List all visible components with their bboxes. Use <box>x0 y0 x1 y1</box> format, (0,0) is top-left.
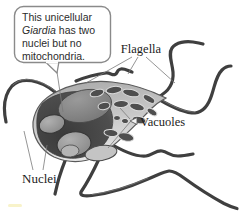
flagellum-upper-right-icon <box>158 42 203 97</box>
scan-artifact <box>8 204 22 207</box>
flagellum-top-wavy-icon <box>76 69 132 81</box>
vacuole <box>121 118 129 124</box>
pointer-line-nucleus-left <box>24 131 33 170</box>
flagellum-bottom-long-icon <box>81 159 237 209</box>
callout-bubble: This unicellular Giardiahas two nuclei b… <box>15 7 111 74</box>
callout-tail <box>45 62 59 74</box>
flagellum-right-icon <box>160 66 231 113</box>
giardia-diagram: Flagella Vacuoles Nuclei This unicellula… <box>0 0 245 215</box>
diagram-canvas: Flagella Vacuoles Nuclei This unicellula… <box>0 0 245 215</box>
label-nuclei: Nuclei <box>22 171 57 186</box>
label-vacuoles: Vacuoles <box>140 115 185 129</box>
vacuole <box>117 131 134 143</box>
vacuole <box>114 116 121 121</box>
label-flagella: Flagella <box>121 42 162 56</box>
flagellum-mid-right-icon <box>106 141 193 156</box>
